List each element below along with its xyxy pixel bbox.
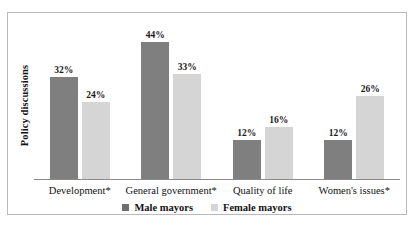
bar-value-label: 16% (269, 116, 288, 126)
bar-wrap-female[interactable]: 33% (173, 19, 201, 179)
category-label: General government* (126, 183, 218, 199)
bar-wrap-male[interactable]: 12% (233, 19, 261, 179)
legend-swatch-icon (122, 204, 129, 211)
bar-group: 12% 26% (309, 19, 401, 179)
bar-female[interactable] (82, 102, 110, 179)
legend-swatch-icon (211, 204, 218, 211)
bar-value-label: 24% (86, 91, 105, 101)
bar-female[interactable] (356, 96, 384, 179)
bar-value-label: 32% (54, 66, 73, 76)
y-axis-title-text: Policy discussions (20, 65, 31, 146)
bar-value-label: 33% (178, 63, 197, 73)
category-axis-labels: Development* General government* Quality… (34, 183, 400, 199)
bar-value-label: 12% (237, 129, 256, 139)
category-label: Women's issues* (309, 183, 401, 199)
chart-frame: Policy discussions 32% 24% 44% 33% (7, 12, 407, 215)
bar-male[interactable] (141, 42, 169, 179)
bar-wrap-female[interactable]: 24% (82, 19, 110, 179)
bar-group: 12% 16% (217, 19, 309, 179)
bar-wrap-male[interactable]: 44% (141, 19, 169, 179)
bar-group: 44% 33% (126, 19, 218, 179)
bar-wrap-male[interactable]: 32% (50, 19, 78, 179)
y-axis-title: Policy discussions (16, 13, 34, 198)
legend-item-male-mayors[interactable]: Male mayors (122, 202, 193, 213)
bar-wrap-female[interactable]: 16% (265, 19, 293, 179)
bar-value-label: 44% (146, 31, 165, 41)
bar-female[interactable] (173, 74, 201, 179)
bar-male[interactable] (50, 77, 78, 179)
bar-wrap-female[interactable]: 26% (356, 19, 384, 179)
legend-label: Female mayors (223, 202, 292, 213)
bar-wrap-male[interactable]: 12% (324, 19, 352, 179)
bar-male[interactable] (324, 140, 352, 179)
bar-male[interactable] (233, 140, 261, 179)
category-label: Quality of life (217, 183, 309, 199)
bar-value-label: 26% (361, 85, 380, 95)
x-axis-line (34, 179, 400, 180)
bar-group: 32% 24% (34, 19, 126, 179)
bar-value-label: 12% (329, 129, 348, 139)
plot-area: 32% 24% 44% 33% 12% 16% (34, 19, 400, 179)
legend-item-female-mayors[interactable]: Female mayors (211, 202, 292, 213)
category-label: Development* (34, 183, 126, 199)
chart-legend: Male mayors Female mayors (8, 202, 406, 213)
legend-label: Male mayors (134, 202, 193, 213)
bar-female[interactable] (265, 127, 293, 179)
